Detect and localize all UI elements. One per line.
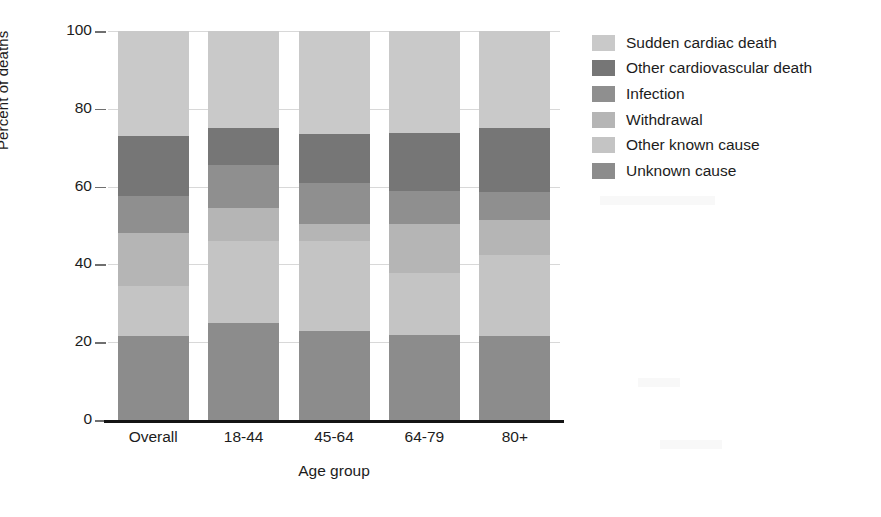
x-axis-tick-label: 18-44 <box>198 428 288 446</box>
y-axis-tick-label: 40 <box>75 254 92 272</box>
bar-segment[interactable] <box>118 286 189 337</box>
bar-segment[interactable] <box>299 183 370 224</box>
bar-segment[interactable] <box>479 336 550 420</box>
bar-segment[interactable] <box>299 224 370 242</box>
legend-label: Infection <box>626 85 685 103</box>
x-axis-tick-label: Overall <box>108 428 198 446</box>
bar-segment[interactable] <box>118 336 189 420</box>
y-axis-tick-mark <box>95 264 106 266</box>
bar-segment[interactable] <box>299 331 370 420</box>
bar-segment[interactable] <box>299 31 370 134</box>
legend-item[interactable]: Unknown cause <box>592 158 812 184</box>
legend-swatch <box>592 163 615 179</box>
legend-swatch <box>592 35 615 51</box>
plot-area: 020406080100 <box>108 31 560 420</box>
y-axis-tick-mark <box>95 187 106 189</box>
stacked-bar[interactable] <box>208 31 279 420</box>
legend-swatch <box>592 86 615 102</box>
bar-segment[interactable] <box>208 323 279 420</box>
bar-segment[interactable] <box>299 241 370 330</box>
bar-slot <box>289 31 379 420</box>
bar-segment[interactable] <box>208 165 279 208</box>
x-axis-line <box>104 420 564 423</box>
legend-item[interactable]: Sudden cardiac death <box>592 30 812 56</box>
bar-segment[interactable] <box>479 220 550 255</box>
chart-legend: Sudden cardiac deathOther cardiovascular… <box>592 30 812 184</box>
stacked-bar[interactable] <box>389 31 460 420</box>
bar-slot <box>470 31 560 420</box>
chart-container: Percent of deaths 020406080100 Overall18… <box>0 0 881 517</box>
bar-segment[interactable] <box>118 196 189 233</box>
y-axis-tick-label: 100 <box>66 21 92 39</box>
y-axis-title: Percent of deaths <box>0 0 11 150</box>
y-axis-tick-label: 20 <box>75 332 92 350</box>
x-axis-tick-label: 80+ <box>470 428 560 446</box>
scan-artifact <box>660 440 722 449</box>
legend-swatch <box>592 60 615 76</box>
bar-segment[interactable] <box>299 134 370 183</box>
y-axis-tick-label: 60 <box>75 177 92 195</box>
legend-label: Unknown cause <box>626 162 736 180</box>
bar-segment[interactable] <box>389 133 460 191</box>
bar-segment[interactable] <box>479 31 550 128</box>
bar-segment[interactable] <box>389 31 460 133</box>
scan-artifact <box>638 378 680 387</box>
scan-artifact <box>600 196 715 205</box>
x-axis-title: Age group <box>108 462 560 480</box>
legend-label: Other known cause <box>626 136 760 154</box>
x-axis-tick-label: 45-64 <box>289 428 379 446</box>
bar-slot <box>108 31 198 420</box>
bar-slot <box>379 31 469 420</box>
bar-segment[interactable] <box>208 31 279 128</box>
bar-segment[interactable] <box>389 224 460 273</box>
bar-slot <box>198 31 288 420</box>
bar-segment[interactable] <box>479 128 550 192</box>
bar-segment[interactable] <box>118 31 189 136</box>
y-axis-tick-mark <box>95 31 106 33</box>
bar-segment[interactable] <box>208 128 279 165</box>
y-axis-tick-mark <box>95 109 106 111</box>
bar-segment[interactable] <box>208 208 279 241</box>
legend-swatch <box>592 137 615 153</box>
legend-label: Other cardiovascular death <box>626 59 812 77</box>
x-axis-tick-labels: Overall18-4445-6464-7980+ <box>108 428 560 446</box>
bar-segment[interactable] <box>479 192 550 219</box>
legend-item[interactable]: Other known cause <box>592 132 812 158</box>
legend-label: Withdrawal <box>626 111 703 129</box>
legend-item[interactable]: Withdrawal <box>592 107 812 133</box>
bar-segment[interactable] <box>118 136 189 196</box>
bar-segment[interactable] <box>389 191 460 224</box>
legend-item[interactable]: Other cardiovascular death <box>592 56 812 82</box>
legend-item[interactable]: Infection <box>592 81 812 107</box>
bar-segment[interactable] <box>208 241 279 323</box>
bar-segment[interactable] <box>118 233 189 286</box>
y-axis-tick-mark <box>95 342 106 344</box>
bar-group <box>108 31 560 420</box>
legend-label: Sudden cardiac death <box>626 34 777 52</box>
bar-segment[interactable] <box>479 255 550 337</box>
x-axis-tick-label: 64-79 <box>379 428 469 446</box>
stacked-bar[interactable] <box>118 31 189 420</box>
y-axis-tick-label: 0 <box>83 410 92 428</box>
stacked-bar[interactable] <box>479 31 550 420</box>
y-axis-tick-label: 80 <box>75 99 92 117</box>
bar-segment[interactable] <box>389 335 460 420</box>
legend-swatch <box>592 112 615 128</box>
bar-segment[interactable] <box>389 273 460 335</box>
stacked-bar[interactable] <box>299 31 370 420</box>
